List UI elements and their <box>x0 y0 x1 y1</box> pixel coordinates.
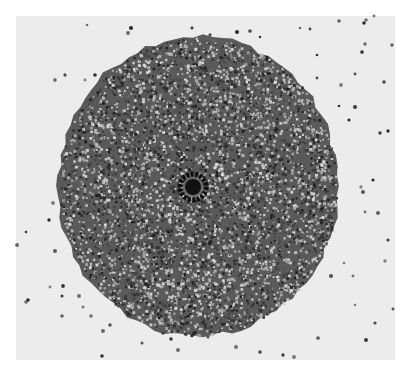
particle <box>191 27 194 30</box>
particle <box>259 36 262 39</box>
particle <box>248 29 252 33</box>
particle <box>126 31 130 35</box>
particle <box>53 249 57 253</box>
particle <box>51 201 55 205</box>
particle <box>392 308 395 311</box>
particle <box>316 77 319 80</box>
particle <box>309 28 312 31</box>
particle <box>359 185 362 188</box>
particle <box>61 284 65 288</box>
particle <box>258 350 262 354</box>
particle <box>343 262 346 265</box>
particle <box>101 329 105 333</box>
particle-disc-image <box>0 0 408 377</box>
particle <box>84 79 87 82</box>
particle <box>383 259 386 262</box>
particle <box>108 323 112 327</box>
particle <box>60 294 63 297</box>
particle <box>281 353 284 356</box>
particle <box>316 336 320 340</box>
particle <box>378 131 382 135</box>
particle <box>371 178 374 181</box>
particle <box>140 341 143 344</box>
particle <box>47 218 50 221</box>
particle <box>208 33 211 36</box>
particle <box>81 305 84 308</box>
particle <box>354 304 357 307</box>
particle <box>89 314 93 318</box>
particle <box>364 211 367 214</box>
particle <box>338 105 341 108</box>
particle <box>360 50 364 54</box>
particle <box>63 73 66 76</box>
particle <box>26 298 30 302</box>
particle <box>364 18 367 21</box>
particle <box>60 314 64 318</box>
particle <box>362 21 366 25</box>
particle <box>337 19 340 22</box>
center-core <box>185 179 201 195</box>
particle <box>15 243 19 247</box>
particle <box>49 286 52 289</box>
particle <box>361 190 365 194</box>
particle <box>376 211 380 215</box>
particle <box>86 24 89 27</box>
particle <box>161 331 165 335</box>
particle <box>352 275 355 278</box>
particle <box>354 73 357 76</box>
particle <box>363 42 366 45</box>
particle <box>386 129 389 132</box>
particle <box>235 30 239 34</box>
particle <box>299 27 302 30</box>
particle <box>382 80 385 83</box>
particle <box>206 335 209 338</box>
particle <box>100 354 104 358</box>
particle <box>353 105 357 109</box>
particle <box>364 338 368 342</box>
particle <box>386 238 389 241</box>
particle <box>129 26 133 30</box>
particle <box>329 274 333 278</box>
particle <box>339 83 343 87</box>
particle <box>234 345 238 349</box>
particle <box>25 231 28 234</box>
particle <box>292 355 296 359</box>
particle <box>93 73 97 77</box>
particle <box>169 337 173 341</box>
particle <box>53 78 56 81</box>
particle <box>77 294 81 298</box>
particle <box>373 15 376 18</box>
particle <box>176 348 180 352</box>
particle <box>373 321 376 324</box>
particle <box>390 43 393 46</box>
particle <box>347 118 350 121</box>
particle <box>316 54 319 57</box>
